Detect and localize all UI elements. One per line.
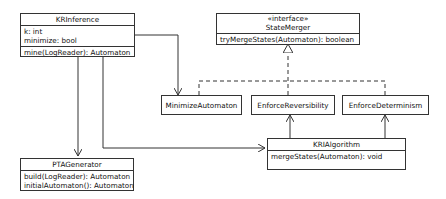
attribute: k: int	[24, 27, 131, 36]
class-ptagenerator[interactable]: PTAGenerator build(LogReader): Automaton…	[20, 158, 134, 191]
class-name: StateMerger	[219, 24, 357, 33]
class-name: EnforceDeterminism	[349, 101, 423, 110]
methods-section: build(LogReader): Automaton initialAutom…	[21, 170, 133, 191]
class-header: «interface» StateMerger	[217, 14, 359, 33]
class-name: EnforceReversibility	[257, 101, 328, 110]
methods-section: tryMergeStates(Automaton): boolean	[217, 33, 359, 45]
methods-section: mergeStates(Automaton): void	[268, 150, 405, 162]
method: tryMergeStates(Automaton): boolean	[220, 35, 356, 44]
assoc-krinference-minimize	[135, 35, 178, 95]
class-name: KRIAlgorithm	[268, 139, 405, 150]
class-enforcedeterminism[interactable]: EnforceDeterminism	[342, 95, 429, 115]
class-name: PTAGenerator	[21, 159, 133, 170]
interface-statemerger[interactable]: «interface» StateMerger tryMergeStates(A…	[216, 13, 360, 45]
realization-bus	[199, 81, 385, 95]
attributes-section: k: int minimize: bool	[21, 25, 134, 46]
method: mine(LogReader): Automaton	[24, 48, 131, 57]
class-minimizeautomaton[interactable]: MinimizeAutomaton	[161, 95, 242, 115]
class-name: KRInference	[21, 14, 134, 25]
class-name: MinimizeAutomaton	[166, 101, 238, 110]
class-enforcereversibility[interactable]: EnforceReversibility	[251, 95, 335, 115]
method: build(LogReader): Automaton	[24, 172, 130, 181]
attribute: minimize: bool	[24, 36, 131, 45]
class-krinference[interactable]: KRInference k: int minimize: bool mine(L…	[20, 13, 135, 57]
methods-section: mine(LogReader): Automaton	[21, 46, 134, 58]
class-krialgorithm[interactable]: KRIAlgorithm mergeStates(Automaton): voi…	[267, 138, 406, 170]
method: mergeStates(Automaton): void	[271, 152, 402, 161]
method: initialAutomaton(): Automaton	[24, 181, 130, 190]
uml-diagram: KRInference k: int minimize: bool mine(L…	[0, 0, 446, 199]
